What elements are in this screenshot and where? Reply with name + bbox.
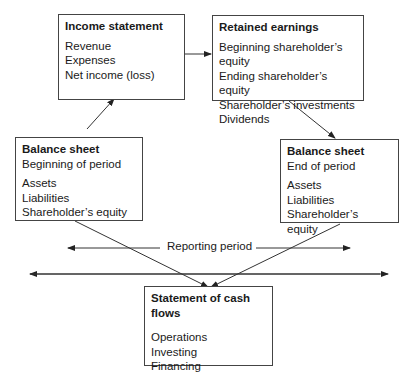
- reporting-period-label: Reporting period: [163, 240, 256, 252]
- cash-flows-box: Statement of cash flows Operations Inves…: [144, 286, 273, 366]
- list-item: Shareholder’s equity: [22, 205, 136, 220]
- list-item: Liabilities: [22, 191, 136, 206]
- list-item: Net income (loss): [65, 68, 178, 83]
- list-item: Assets: [22, 176, 136, 191]
- arrow-balance-to-income: [87, 99, 114, 129]
- list-item: Investing: [151, 345, 266, 360]
- list-item: Revenue: [65, 39, 178, 54]
- list-item: Shareholder’s investments: [219, 98, 357, 113]
- box-subtitle: End of period: [287, 159, 392, 174]
- list-item: Assets: [287, 178, 392, 193]
- list-item: Financing: [151, 359, 266, 374]
- retained-earnings-box: Retained earnings Beginning shareholder’…: [212, 15, 364, 101]
- box-title: Statement of cash flows: [151, 291, 266, 320]
- box-title: Balance sheet: [287, 144, 392, 159]
- income-statement-box: Income statement Revenue Expenses Net in…: [58, 14, 185, 100]
- list-item: Expenses: [65, 53, 178, 68]
- box-title: Balance sheet: [22, 142, 136, 157]
- box-title: Retained earnings: [219, 20, 357, 35]
- box-title: Income statement: [65, 19, 178, 34]
- balance-sheet-end-box: Balance sheet End of period Assets Liabi…: [280, 139, 399, 223]
- list-item: Operations: [151, 330, 266, 345]
- list-item: Shareholder’s equity: [287, 207, 392, 236]
- list-item: Liabilities: [287, 193, 392, 208]
- list-item: Beginning shareholder’s equity: [219, 40, 357, 69]
- list-item: Ending shareholder’s equity: [219, 69, 357, 98]
- arrow-balance-begin-to-cash: [75, 221, 208, 287]
- box-subtitle: Beginning of period: [22, 157, 136, 172]
- balance-sheet-begin-box: Balance sheet Beginning of period Assets…: [15, 137, 143, 221]
- list-item: Dividends: [219, 112, 357, 127]
